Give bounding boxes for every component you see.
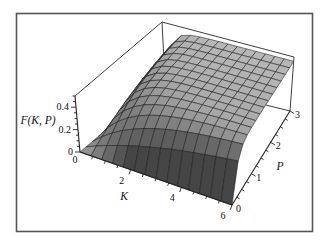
f-tick-label: 0 [68, 146, 73, 157]
figure: 2460K1230P00.20.4F(K, P) [0, 0, 323, 241]
f-axis-title: F(K, P) [19, 114, 55, 127]
k-origin-label: 0 [73, 154, 78, 165]
k-tick-label: 6 [221, 210, 226, 221]
k-tick-label: 2 [119, 175, 124, 186]
p-origin-label: 0 [236, 203, 241, 214]
f-tick-label: 0.4 [57, 101, 70, 112]
p-tick-label: 3 [295, 109, 300, 120]
f-tick-label: 0.2 [59, 124, 72, 135]
p-tick-label: 2 [276, 140, 281, 151]
k-tick-label: 4 [170, 192, 175, 203]
surface-plot: 2460K1230P00.20.4F(K, P) [0, 0, 323, 241]
p-axis-title: P [275, 160, 283, 172]
p-tick-label: 1 [256, 172, 261, 183]
k-axis-title: K [119, 190, 129, 202]
